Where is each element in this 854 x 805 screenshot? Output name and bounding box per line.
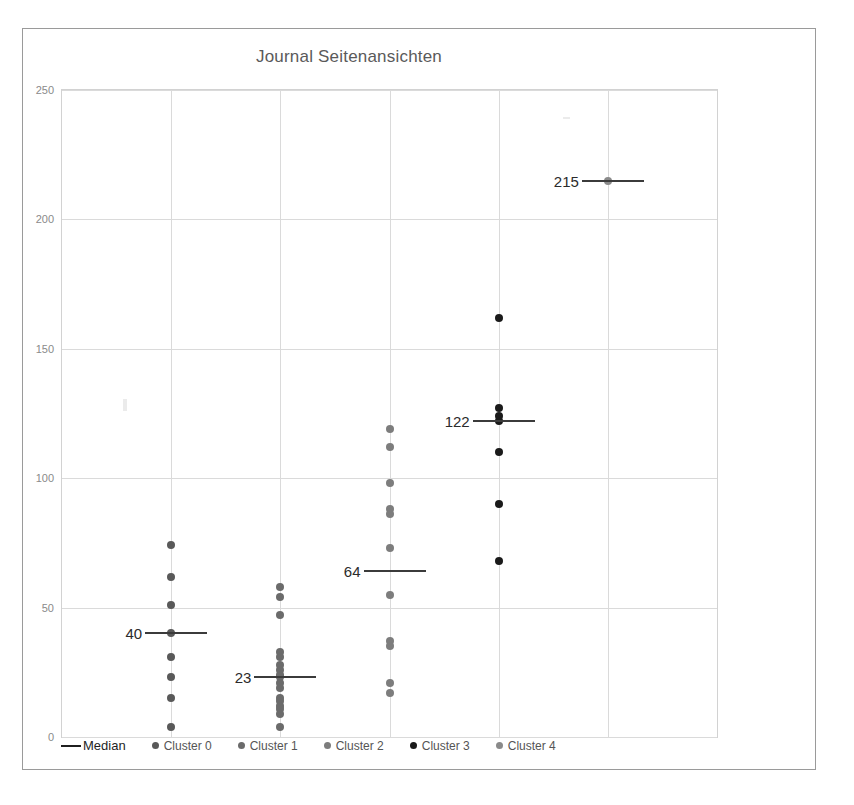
plot-area: 050100150200250402364122215 [61,89,718,738]
chart-frame: Journal Seitenansichten 0501001502002504… [22,28,816,770]
data-point [495,448,503,456]
legend-item-label: Cluster 0 [164,739,212,753]
median-value-label: 215 [554,172,582,189]
data-point [167,601,175,609]
data-point [386,591,394,599]
data-point [386,689,394,697]
legend-item[interactable]: Cluster 4 [496,739,556,753]
median-value-label: 64 [344,563,364,580]
legend-line-icon [61,745,81,747]
y-axis-tick-label: 100 [36,472,54,484]
data-point [276,583,284,591]
data-point [276,593,284,601]
legend-item-label: Cluster 3 [422,739,470,753]
data-point [386,510,394,518]
legend-dot-icon [496,742,503,749]
legend-item[interactable]: Cluster 0 [152,739,212,753]
data-point [386,479,394,487]
median-bar [145,632,207,634]
gridline-vertical [608,90,609,737]
y-axis-tick-label: 250 [36,84,54,96]
median-bar [582,180,644,182]
legend-item[interactable]: Cluster 3 [410,739,470,753]
data-point [276,723,284,731]
gridline-vertical [171,90,172,737]
data-point [276,684,284,692]
gridline-vertical [280,90,281,737]
chart-legend: MedianCluster 0Cluster 1Cluster 2Cluster… [61,738,556,753]
legend-item[interactable]: Cluster 1 [238,739,298,753]
median-value-label: 23 [235,669,255,686]
legend-item-label: Cluster 1 [250,739,298,753]
legend-dot-icon [152,742,159,749]
data-point [167,573,175,581]
data-point [276,710,284,718]
chart-title-text: Journal Seitenansichten [256,47,442,66]
y-axis-tick-label: 150 [36,343,54,355]
data-point [276,611,284,619]
legend-item[interactable]: Median [61,738,126,753]
data-point [386,425,394,433]
median-value-label: 40 [125,625,145,642]
data-point [386,679,394,687]
y-axis-tick-label: 50 [42,602,54,614]
legend-item-label: Cluster 4 [508,739,556,753]
data-point [386,642,394,650]
data-point [167,541,175,549]
legend-dot-icon [410,742,417,749]
legend-item-label: Median [83,738,126,753]
data-point [386,443,394,451]
legend-item[interactable]: Cluster 2 [324,739,384,753]
median-value-label: 122 [445,413,473,430]
data-point [167,694,175,702]
data-point [167,673,175,681]
legend-item-label: Cluster 2 [336,739,384,753]
legend-dot-icon [238,742,245,749]
data-point [386,544,394,552]
data-point [495,314,503,322]
median-bar [364,570,426,572]
data-point [167,723,175,731]
data-point [167,653,175,661]
median-bar [254,676,316,678]
legend-dot-icon [324,742,331,749]
median-bar [473,420,535,422]
chart-title: Journal Seitenansichten [23,47,815,67]
y-axis-tick-label: 200 [36,213,54,225]
data-point [495,500,503,508]
data-point [495,557,503,565]
y-axis-tick-label: 0 [48,731,54,743]
